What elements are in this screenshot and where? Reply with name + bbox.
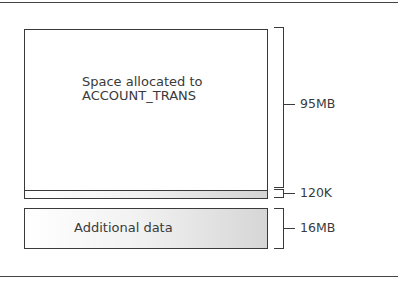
size-bracket-strip	[274, 189, 284, 198]
size-tick-strip	[284, 193, 295, 194]
size-label-strip: 120K	[300, 186, 332, 200]
size-bracket-additional	[274, 208, 284, 249]
additional-data-label: Additional data	[74, 221, 173, 235]
bottom-rule	[0, 276, 398, 277]
size-bracket-main	[274, 27, 284, 188]
top-rule	[0, 2, 398, 3]
size-label-main: 95MB	[300, 97, 335, 111]
size-label-additional: 16MB	[300, 221, 335, 235]
size-tick-main	[284, 104, 295, 105]
account-trans-label-line2: ACCOUNT_TRANS	[82, 89, 203, 103]
account-trans-allocation-block: Space allocated to ACCOUNT_TRANS	[24, 29, 268, 199]
account-trans-label-line1: Space allocated to	[82, 75, 203, 89]
small-extent-strip	[25, 190, 267, 198]
size-tick-additional	[284, 228, 295, 229]
additional-data-block: Additional data	[24, 208, 268, 249]
account-trans-label: Space allocated to ACCOUNT_TRANS	[82, 75, 203, 103]
